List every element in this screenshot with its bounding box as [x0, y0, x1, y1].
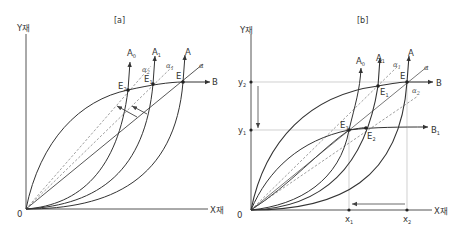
curve-a1: [26, 56, 155, 209]
label-alpha1: α1: [166, 62, 174, 71]
ray-alpha1: [26, 66, 173, 209]
origin-label: 0: [17, 209, 22, 219]
point-e2: [364, 126, 368, 130]
panel-b: [b] Y재 X재 0 y2 y1 x1 x2: [237, 16, 448, 225]
label-y1: y1: [238, 125, 246, 136]
panel-b-title: [b]: [357, 16, 368, 25]
curve-b1: [349, 127, 428, 130]
tick-x2: [405, 208, 408, 211]
label-alpha1: α1: [393, 61, 401, 70]
ray-alpha: [251, 66, 428, 210]
curve-a1: [251, 58, 380, 210]
diagram-canvas: [a] Y재 X재 0 A0 A1 A B E2 E1 E α2: [0, 0, 466, 237]
label-x1: x1: [345, 214, 353, 225]
curve-a0: [251, 68, 361, 210]
label-alpha: α: [199, 62, 204, 70]
label-a: A: [185, 47, 191, 57]
label-a0: A0: [127, 48, 136, 59]
label-b: B: [436, 78, 442, 88]
label-a1: A1: [152, 47, 161, 58]
curve-a: [26, 55, 185, 209]
point-e2: [126, 88, 130, 92]
label-alpha2: α2: [412, 87, 420, 96]
point-e: [405, 80, 409, 84]
y-axis-label: Y재: [16, 23, 30, 33]
label-e2: E2: [367, 131, 376, 142]
tick-y2: [249, 80, 252, 83]
label-x2: x2: [403, 214, 411, 225]
diagram-container: [a] Y재 X재 0 A0 A1 A B E2 E1 E α2: [0, 0, 466, 237]
label-e1: E1: [144, 74, 153, 85]
label-e1: E1: [380, 87, 389, 98]
origin-label: 0: [237, 210, 242, 220]
ray-alpha2: [251, 96, 418, 210]
label-e2: E2: [118, 81, 127, 92]
curve-a0: [26, 62, 130, 209]
label-e3: E3: [340, 120, 349, 131]
label-b1: B1: [431, 125, 440, 136]
label-b: B: [212, 77, 218, 87]
ray-alpha2: [26, 66, 151, 209]
curve-a: [251, 56, 409, 210]
shift-arrow-1: [117, 106, 137, 117]
label-a1: A1: [376, 53, 385, 64]
label-e: E: [176, 71, 181, 81]
panel-a: [a] Y재 X재 0 A0 A1 A B E2 E1 E α2: [16, 16, 224, 219]
label-a: A: [408, 48, 414, 58]
label-y2: y2: [238, 77, 246, 88]
x-axis-label: X재: [210, 205, 224, 215]
label-alpha2: α2: [142, 66, 150, 75]
point-e: [181, 80, 185, 84]
panel-a-title: [a]: [114, 16, 125, 25]
label-alpha: α: [424, 64, 429, 72]
x-axis-label: X재: [434, 206, 448, 216]
ray-alpha: [26, 64, 203, 209]
tick-y1: [249, 128, 252, 131]
label-e: E: [400, 71, 405, 81]
shift-arrow-2: [132, 106, 147, 114]
label-a0: A0: [356, 56, 365, 67]
y-axis-label: Y재: [239, 25, 253, 35]
tick-x1: [347, 208, 350, 211]
